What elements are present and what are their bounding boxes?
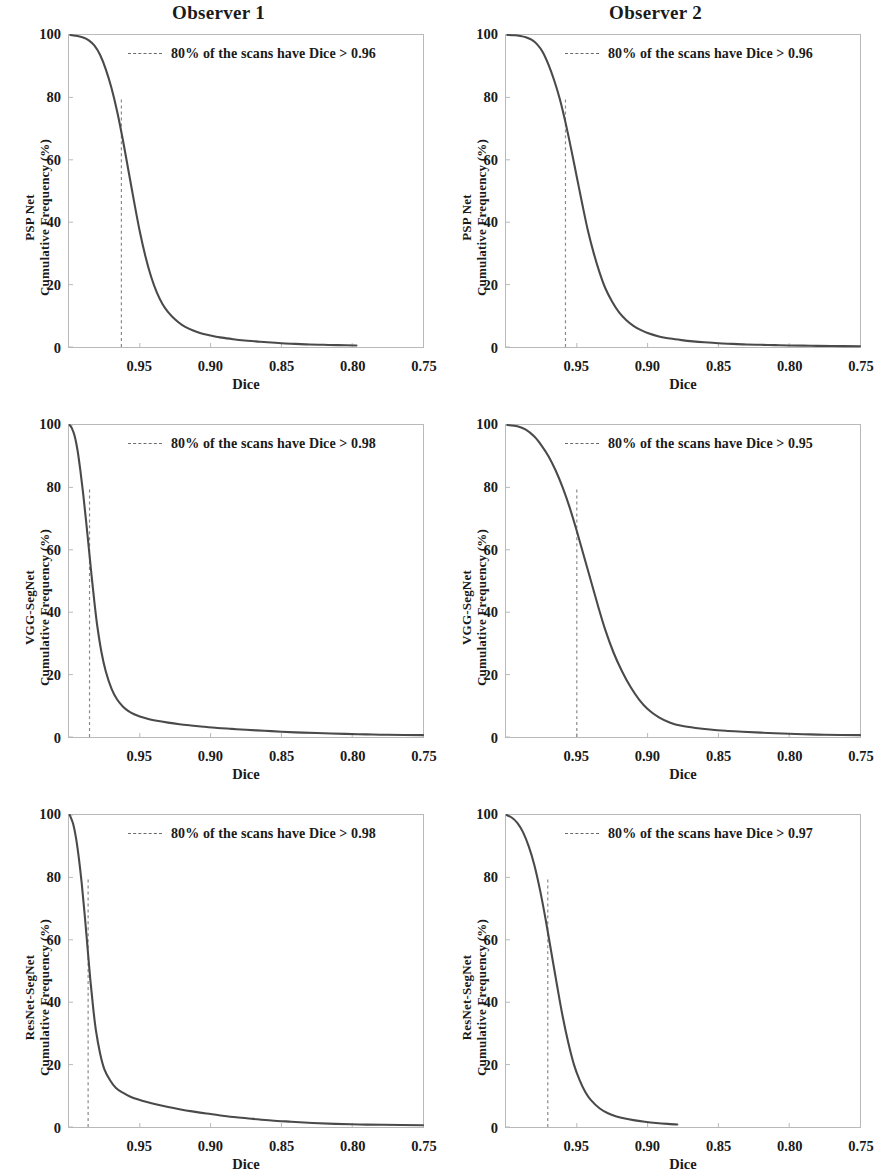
x-tick-label: 0.85 xyxy=(269,1138,294,1155)
column-title-observer-2: Observer 2 xyxy=(437,2,874,24)
x-tick-label: 0.90 xyxy=(635,748,660,765)
x-tick-label: 0.85 xyxy=(706,1138,731,1155)
x-tick-label: 0.90 xyxy=(635,1138,660,1155)
y-axis-model-name: ResNet-SegNet xyxy=(459,919,474,1076)
legend-label: 80% of the scans have Dice > 0.95 xyxy=(608,436,813,452)
x-tick-label: 0.90 xyxy=(635,358,660,375)
plot-area xyxy=(68,424,424,738)
y-tick-label: 80 xyxy=(47,478,62,495)
y-tick-label: 0 xyxy=(491,1120,498,1137)
x-tick-label: 0.80 xyxy=(777,748,802,765)
legend: 80% of the scans have Dice > 0.97 xyxy=(565,826,813,842)
y-axis-model-name: VGG-SegNet xyxy=(459,529,474,686)
x-tick-label: 0.85 xyxy=(706,748,731,765)
x-tick-label: 0.85 xyxy=(269,358,294,375)
x-tick-label: 0.95 xyxy=(564,358,589,375)
y-axis-title: VGG-SegNetCumulative Frequency (%) xyxy=(459,529,489,686)
y-axis-title: PSP NetCumulative Frequency (%) xyxy=(22,139,52,296)
x-tick-label: 0.75 xyxy=(848,358,873,375)
dashed-line-icon xyxy=(128,443,162,445)
y-axis-metric-name: Cumulative Frequency (%) xyxy=(474,919,489,1076)
y-tick-label: 100 xyxy=(39,416,61,433)
dashed-line-icon xyxy=(565,53,599,55)
legend-label: 80% of the scans have Dice > 0.98 xyxy=(171,436,376,452)
y-tick-label: 80 xyxy=(47,868,62,885)
x-tick-label: 0.90 xyxy=(198,748,223,765)
cumulative-curve xyxy=(70,815,423,1125)
x-tick-label: 0.75 xyxy=(848,1138,873,1155)
y-axis-title: ResNet-SegNetCumulative Frequency (%) xyxy=(22,919,52,1076)
x-tick-label: 0.90 xyxy=(198,358,223,375)
dashed-line-icon xyxy=(565,833,599,835)
x-tick-label: 0.95 xyxy=(127,1138,152,1155)
plot-area xyxy=(505,424,861,738)
x-tick-label: 0.80 xyxy=(340,358,365,375)
y-tick-label: 100 xyxy=(39,26,61,43)
panel-resnetsegnet-observer2: 0.950.900.850.800.75020406080100DiceResN… xyxy=(437,780,874,1167)
x-tick-label: 0.80 xyxy=(340,1138,365,1155)
y-tick-label: 0 xyxy=(54,340,61,357)
y-tick-label: 80 xyxy=(484,478,499,495)
plot-canvas xyxy=(506,815,860,1127)
cumulative-curve xyxy=(507,815,678,1125)
y-axis-model-name: VGG-SegNet xyxy=(22,529,37,686)
y-tick-label: 0 xyxy=(54,1120,61,1137)
panel-resnetsegnet-observer1: 0.950.900.850.800.75020406080100DiceResN… xyxy=(0,780,437,1167)
legend: 80% of the scans have Dice > 0.96 xyxy=(565,46,813,62)
plot-canvas xyxy=(69,425,423,737)
y-axis-title: ResNet-SegNetCumulative Frequency (%) xyxy=(459,919,489,1076)
y-tick-label: 0 xyxy=(54,730,61,747)
x-tick-label: 0.80 xyxy=(777,1138,802,1155)
y-tick-label: 100 xyxy=(476,806,498,823)
y-axis-title: PSP NetCumulative Frequency (%) xyxy=(459,139,489,296)
panel-pspnet-observer2: Observer 2 0.950.900.850.800.75020406080… xyxy=(437,0,874,390)
x-tick-label: 0.80 xyxy=(777,358,802,375)
x-tick-label: 0.80 xyxy=(340,748,365,765)
x-tick-label: 0.85 xyxy=(269,748,294,765)
x-axis-title: Dice xyxy=(669,1156,696,1173)
cumulative-curve xyxy=(507,35,860,346)
y-tick-label: 100 xyxy=(476,416,498,433)
legend: 80% of the scans have Dice > 0.98 xyxy=(128,826,376,842)
cumulative-curve xyxy=(70,35,356,345)
plot-area xyxy=(505,34,861,348)
panel-vggsegnet-observer1: 0.950.900.850.800.75020406080100DiceVGG-… xyxy=(0,390,437,780)
y-axis-metric-name: Cumulative Frequency (%) xyxy=(474,529,489,686)
legend: 80% of the scans have Dice > 0.98 xyxy=(128,436,376,452)
plot-canvas xyxy=(69,815,423,1127)
column-title-observer-1: Observer 1 xyxy=(0,2,437,24)
x-tick-label: 0.75 xyxy=(411,748,436,765)
dashed-line-icon xyxy=(128,833,162,835)
x-tick-label: 0.90 xyxy=(198,1138,223,1155)
panel-vggsegnet-observer2: 0.950.900.850.800.75020406080100DiceVGG-… xyxy=(437,390,874,780)
y-tick-label: 0 xyxy=(491,730,498,747)
x-tick-label: 0.75 xyxy=(411,1138,436,1155)
y-axis-metric-name: Cumulative Frequency (%) xyxy=(37,919,52,1076)
y-tick-label: 80 xyxy=(484,868,499,885)
y-axis-title: VGG-SegNetCumulative Frequency (%) xyxy=(22,529,52,686)
legend-label: 80% of the scans have Dice > 0.97 xyxy=(608,826,813,842)
plot-canvas xyxy=(506,425,860,737)
y-tick-label: 80 xyxy=(484,88,499,105)
plot-area xyxy=(505,814,861,1128)
x-tick-label: 0.75 xyxy=(848,748,873,765)
plot-area xyxy=(68,34,424,348)
legend: 80% of the scans have Dice > 0.96 xyxy=(128,46,376,62)
legend-label: 80% of the scans have Dice > 0.98 xyxy=(171,826,376,842)
legend-label: 80% of the scans have Dice > 0.96 xyxy=(171,46,376,62)
y-axis-model-name: PSP Net xyxy=(22,139,37,296)
x-axis-title: Dice xyxy=(232,1156,259,1173)
cumulative-curve xyxy=(507,425,860,735)
y-axis-model-name: ResNet-SegNet xyxy=(22,919,37,1076)
x-tick-label: 0.75 xyxy=(411,358,436,375)
y-tick-label: 0 xyxy=(491,340,498,357)
panel-pspnet-observer1: Observer 1 0.950.900.850.800.75020406080… xyxy=(0,0,437,390)
legend-label: 80% of the scans have Dice > 0.96 xyxy=(608,46,813,62)
dashed-line-icon xyxy=(128,53,162,55)
y-tick-label: 100 xyxy=(476,26,498,43)
y-tick-label: 100 xyxy=(39,806,61,823)
legend: 80% of the scans have Dice > 0.95 xyxy=(565,436,813,452)
y-axis-metric-name: Cumulative Frequency (%) xyxy=(37,529,52,686)
y-axis-model-name: PSP Net xyxy=(459,139,474,296)
